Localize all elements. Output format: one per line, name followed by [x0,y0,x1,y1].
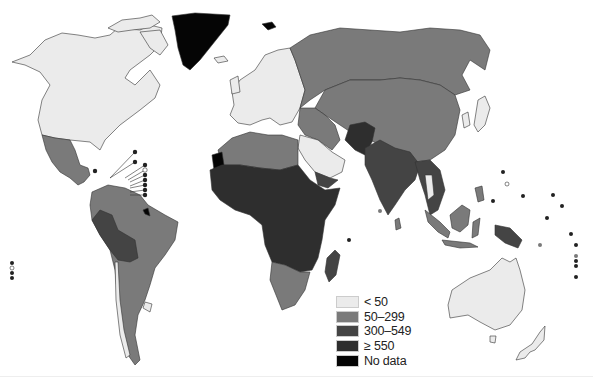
region-japan [474,96,490,132]
legend-item: ≥ 550 [336,339,411,354]
bottom-rule [0,376,593,377]
legend-item: 300–549 [336,324,411,339]
region-sulawesi [472,218,480,238]
legend-swatch-lt50 [336,296,359,308]
region-svalbard [262,22,276,30]
region-borneo [450,205,470,232]
world-map [0,0,593,382]
region-iceland [214,56,228,63]
region-uk [230,76,240,94]
legend-item: 50–299 [336,310,411,325]
region-uruguay [143,302,152,312]
region-mexico [42,135,90,185]
region-madagascar [325,250,340,282]
region-indonesia [425,210,450,238]
legend-label: 50–299 [364,310,405,324]
region-australia [448,258,525,330]
region-north-africa [218,132,298,170]
legend-label: ≥ 550 [364,339,394,353]
legend-swatch-300-549 [336,325,359,337]
region-png [495,225,522,248]
region-korea [462,112,470,128]
region-philippines [475,186,484,202]
region-north-america [12,25,162,150]
legend-label: < 50 [364,295,388,309]
legend-swatch-ge550 [336,340,359,352]
region-sri-lanka [395,218,401,230]
map-legend: < 50 50–299 300–549 ≥ 550 No data [336,295,411,368]
region-europe [230,48,305,125]
region-java [442,240,478,248]
legend-item: < 50 [336,295,411,310]
legend-swatch-50-299 [336,311,359,323]
legend-label: No data [364,354,406,368]
region-new-zealand [516,326,545,360]
legend-item: No data [336,353,411,368]
legend-label: 300–549 [364,324,411,338]
legend-swatch-no-data [336,355,359,367]
region-tasmania [490,336,496,343]
